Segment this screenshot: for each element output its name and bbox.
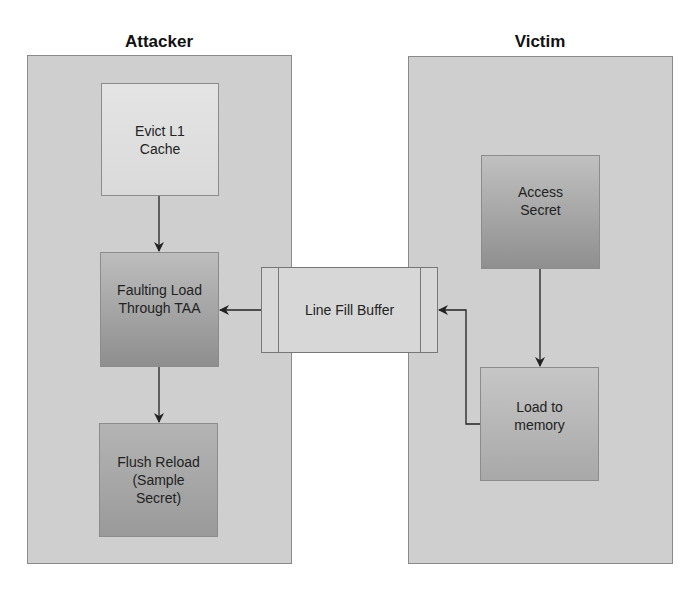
connectors — [0, 0, 700, 594]
arrow-load-to-lfb — [439, 310, 480, 424]
